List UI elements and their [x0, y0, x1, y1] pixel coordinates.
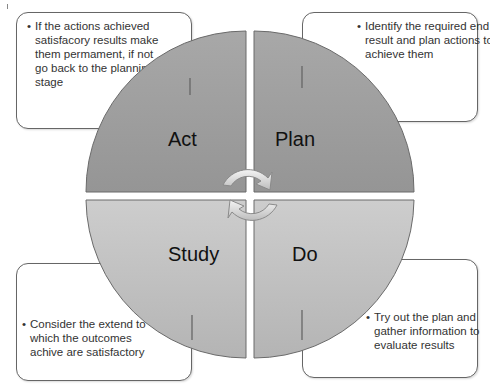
- pdsa-circle: [0, 0, 490, 392]
- quadrant-plan: [254, 31, 414, 192]
- quadrant-label-do: Do: [292, 243, 318, 266]
- quadrant-study: [86, 200, 246, 358]
- quadrant-do: [254, 200, 414, 358]
- quadrant-label-act: Act: [168, 128, 197, 151]
- quadrant-label-plan: Plan: [275, 128, 315, 151]
- quadrant-act: [86, 31, 246, 192]
- quadrant-label-study: Study: [168, 243, 219, 266]
- cycle-arrows-icon: [223, 170, 277, 221]
